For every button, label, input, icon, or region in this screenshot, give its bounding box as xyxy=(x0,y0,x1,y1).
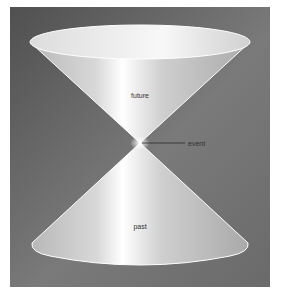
future-label: future xyxy=(131,92,149,99)
past-label: past xyxy=(133,223,146,231)
light-cone-diagram: future event past xyxy=(0,0,281,303)
future-cone-top xyxy=(30,25,250,59)
event-label: event xyxy=(188,140,205,147)
